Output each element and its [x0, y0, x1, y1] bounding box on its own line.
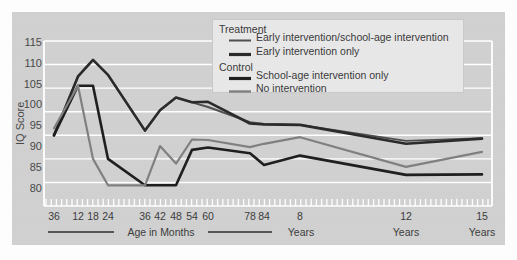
x-axis-group-label-years-8: Years — [281, 226, 321, 238]
x-axis-group-rules — [0, 0, 517, 260]
x-axis-group-label-years-15: Years — [462, 226, 502, 238]
x-axis-group-label-years-12: Years — [386, 226, 426, 238]
chart-root: 115 110 105 100 95 90 85 80 IQ Score Tre… — [0, 0, 517, 260]
x-axis-group-label-age-in-months: Age in Months — [116, 226, 206, 238]
